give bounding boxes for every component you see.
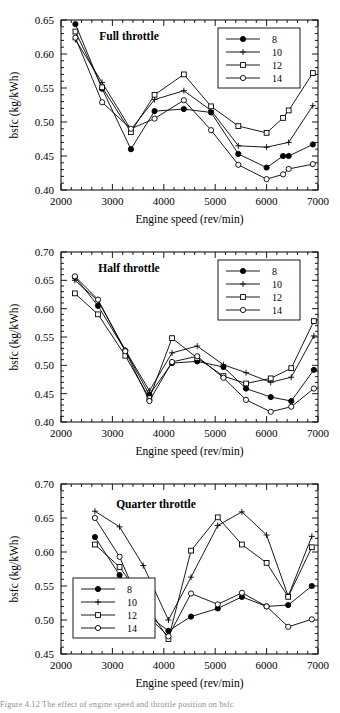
data-point-open-circle bbox=[73, 35, 78, 40]
y-tick-label: 0.50 bbox=[35, 614, 55, 626]
data-point-plus bbox=[215, 522, 221, 528]
y-tick-label: 0.40 bbox=[35, 416, 55, 428]
data-point-open-circle bbox=[289, 404, 294, 409]
y-tick-label: 0.60 bbox=[35, 546, 55, 558]
y-tick-label: 0.45 bbox=[35, 150, 55, 162]
legend-label: 12 bbox=[127, 610, 137, 621]
panel-title: Full throttle bbox=[99, 30, 159, 42]
data-point-square bbox=[215, 515, 220, 520]
legend-label: 10 bbox=[127, 597, 137, 608]
data-point-plus bbox=[169, 350, 175, 356]
x-tick-label: 4000 bbox=[153, 427, 176, 439]
legend-label: 10 bbox=[272, 47, 282, 58]
legend-label: 12 bbox=[272, 60, 282, 71]
x-tick-label: 5000 bbox=[204, 659, 227, 671]
data-point-open-circle bbox=[100, 100, 105, 105]
data-point-square bbox=[100, 85, 105, 90]
data-point-open-circle bbox=[236, 162, 241, 167]
data-point-square bbox=[264, 560, 269, 565]
legend: 8101214 bbox=[73, 578, 155, 638]
data-point-open-circle bbox=[311, 386, 316, 391]
line-chart-1: 2000300040005000600070000.400.450.500.55… bbox=[0, 234, 340, 464]
data-point-open-circle bbox=[195, 354, 200, 359]
legend-marker-filled-circle bbox=[240, 268, 245, 273]
legend-marker-open-circle bbox=[240, 307, 245, 312]
data-point-square bbox=[189, 548, 194, 553]
y-tick-label: 0.65 bbox=[35, 274, 55, 286]
data-point-filled-circle bbox=[117, 573, 122, 578]
data-point-square bbox=[268, 376, 273, 381]
data-point-square bbox=[240, 542, 245, 547]
x-tick-label: 7000 bbox=[307, 659, 330, 671]
data-point-filled-circle bbox=[268, 394, 273, 399]
figure-caption: Figure 4.12 The effect of engine speed a… bbox=[0, 700, 340, 709]
x-tick-label: 3000 bbox=[101, 427, 124, 439]
x-tick-label: 2000 bbox=[50, 659, 73, 671]
data-point-square bbox=[96, 312, 101, 317]
data-point-square bbox=[309, 545, 314, 550]
data-point-square bbox=[286, 594, 291, 599]
y-tick-label: 0.55 bbox=[35, 82, 55, 94]
data-point-open-circle bbox=[181, 98, 186, 103]
data-point-open-circle bbox=[95, 297, 100, 302]
legend-label: 14 bbox=[127, 623, 137, 634]
line-chart-2: 2000300040005000600070000.450.500.550.60… bbox=[0, 466, 340, 696]
data-point-square bbox=[93, 542, 98, 547]
data-point-square bbox=[310, 71, 315, 76]
data-point-filled-circle bbox=[152, 109, 157, 114]
data-point-open-circle bbox=[92, 515, 97, 520]
data-point-square bbox=[73, 29, 78, 34]
y-tick-label: 0.45 bbox=[35, 648, 55, 660]
x-tick-label: 7000 bbox=[307, 195, 330, 207]
data-point-square bbox=[244, 381, 249, 386]
data-point-square bbox=[117, 565, 122, 570]
data-point-open-circle bbox=[239, 590, 244, 595]
data-point-plus bbox=[309, 533, 315, 539]
panel-title: Quarter throttle bbox=[116, 498, 196, 510]
y-tick-label: 0.60 bbox=[35, 303, 55, 315]
x-axis-title: Engine speed (rev/min) bbox=[136, 213, 244, 226]
x-tick-label: 2000 bbox=[50, 427, 73, 439]
data-point-plus bbox=[181, 88, 187, 94]
data-point-filled-circle bbox=[286, 602, 291, 607]
x-tick-label: 3000 bbox=[101, 659, 124, 671]
x-axis-title: Engine speed (rev/min) bbox=[136, 677, 244, 690]
data-point-plus bbox=[288, 374, 294, 380]
data-point-plus bbox=[310, 103, 316, 109]
data-point-plus bbox=[286, 139, 292, 145]
data-point-square bbox=[286, 108, 291, 113]
y-tick-label: 0.40 bbox=[35, 184, 55, 196]
figure-bsfc-vs-engine-speed: 2000300040005000600070000.400.450.500.55… bbox=[0, 0, 340, 713]
legend-label: 8 bbox=[127, 584, 132, 595]
data-point-plus bbox=[92, 508, 98, 514]
y-axis-title: bsfc (kg/kWh) bbox=[8, 535, 21, 602]
data-point-filled-circle bbox=[310, 142, 315, 147]
legend-marker-square bbox=[96, 613, 101, 618]
x-tick-label: 6000 bbox=[256, 427, 279, 439]
data-point-square bbox=[152, 92, 157, 97]
data-point-plus bbox=[194, 343, 200, 349]
chart-panel-quarter-throttle: 2000300040005000600070000.450.500.550.60… bbox=[0, 466, 340, 696]
data-point-square bbox=[289, 366, 294, 371]
data-point-filled-circle bbox=[92, 534, 97, 539]
legend-label: 12 bbox=[272, 292, 282, 303]
legend-marker-open-circle bbox=[240, 75, 245, 80]
data-point-square bbox=[72, 291, 77, 296]
legend-marker-filled-circle bbox=[95, 586, 100, 591]
x-tick-label: 6000 bbox=[256, 659, 279, 671]
x-tick-label: 5000 bbox=[204, 427, 227, 439]
data-point-open-circle bbox=[286, 624, 291, 629]
data-point-open-circle bbox=[243, 397, 248, 402]
legend-label: 14 bbox=[272, 305, 282, 316]
data-point-open-circle bbox=[309, 617, 314, 622]
data-point-square bbox=[181, 72, 186, 77]
y-tick-label: 0.50 bbox=[35, 116, 55, 128]
legend-label: 8 bbox=[272, 266, 277, 277]
y-tick-label: 0.70 bbox=[35, 478, 55, 490]
data-point-open-circle bbox=[147, 398, 152, 403]
x-axis-title: Engine speed (rev/min) bbox=[136, 445, 244, 458]
x-tick-label: 3000 bbox=[101, 195, 124, 207]
y-axis-title: bsfc (kg/kWh) bbox=[8, 303, 21, 370]
legend: 8101214 bbox=[218, 28, 300, 88]
data-point-plus bbox=[188, 574, 194, 580]
